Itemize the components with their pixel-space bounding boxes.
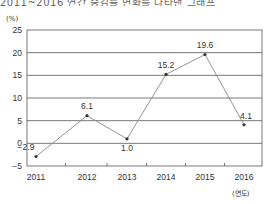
gridlines [27,53,262,144]
data-label: −2.9 [18,142,35,152]
x-axis-unit: (연도) [232,190,250,198]
data-label: 6.1 [81,101,93,111]
y-axis-unit: (%) [6,15,18,23]
x-tick-label: 2013 [118,172,137,182]
y-tick-label: 10 [13,93,23,103]
y-tick-label: 25 [13,25,23,35]
y-tick-label: 15 [13,70,23,80]
data-label: 15.2 [158,60,175,70]
x-tick-label: 2016 [235,172,254,182]
x-tick-label: 2015 [196,172,215,182]
x-tick-label: 2011 [27,172,46,182]
data-point [164,73,167,76]
data-point [34,155,37,158]
data-series-line [36,54,244,156]
data-points: −2.96.11.015.219.64.1 [18,40,253,158]
y-tick-label: 20 [13,48,23,58]
data-point [203,53,206,56]
data-label: 1.0 [121,143,133,153]
x-tick-label: 2012 [78,172,97,182]
data-point [242,123,245,126]
data-label: 4.1 [240,111,252,121]
y-tick-label: −5 [12,161,22,171]
data-point [125,137,128,140]
line-chart: 2520151050−5 201120122013201420152016 (%… [0,0,273,204]
data-label: 19.6 [197,40,214,50]
data-point [85,114,88,117]
x-tick-label: 2014 [157,172,176,182]
y-tick-label: 5 [17,116,22,126]
